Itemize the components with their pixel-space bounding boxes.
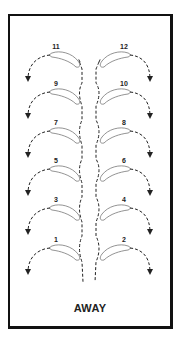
footprints (50, 52, 131, 260)
arrow-icon-11 (28, 55, 50, 79)
arrow-icon-4 (130, 208, 150, 232)
footprint-2 (100, 245, 130, 260)
arrow-icon-3 (28, 208, 50, 232)
arrow-icon-9 (28, 92, 50, 116)
step-label-7: 7 (54, 119, 58, 126)
footprint-10 (100, 89, 130, 104)
arrow-icon-12 (130, 55, 150, 79)
arrow-icon-8 (130, 131, 150, 155)
step-label-11: 11 (52, 43, 59, 50)
footprint-4 (100, 205, 130, 220)
arrow-icon-5 (28, 169, 50, 193)
footprint-11 (50, 52, 80, 67)
step-label-12: 12 (120, 43, 128, 50)
step-label-2: 2 (122, 236, 126, 243)
step-label-1: 1 (54, 236, 58, 243)
footprint-9 (50, 89, 80, 104)
step-label-10: 10 (120, 80, 128, 87)
step-label-8: 8 (122, 119, 126, 126)
footprint-1 (50, 245, 80, 260)
diagram-caption: AWAY (0, 302, 180, 314)
step-label-4: 4 (122, 196, 126, 203)
footprint-5 (50, 166, 80, 181)
arrow-icon-2 (130, 248, 150, 272)
footprint-8 (100, 128, 130, 143)
footprint-7 (50, 128, 80, 143)
arrow-icon-1 (28, 248, 50, 272)
footprint-12 (100, 52, 130, 67)
step-label-3: 3 (54, 196, 58, 203)
step-label-5: 5 (54, 157, 58, 164)
footwork-diagram (0, 0, 180, 339)
center-track-lines (79, 60, 100, 282)
arrow-icon-7 (28, 131, 50, 155)
step-label-6: 6 (122, 157, 126, 164)
arrow-icon-6 (130, 169, 150, 193)
footprint-6 (100, 166, 130, 181)
step-label-9: 9 (54, 80, 58, 87)
step-arrows (28, 55, 150, 272)
footprint-3 (50, 205, 80, 220)
arrow-icon-10 (130, 92, 150, 116)
